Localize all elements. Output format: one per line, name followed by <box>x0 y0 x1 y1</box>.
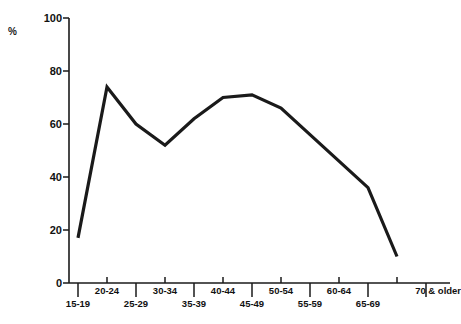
x-tick-label-25-29: 25-29 <box>124 298 148 309</box>
x-tick-label-70-and-older: 70 & older <box>415 285 461 296</box>
x-tick-label-60-64: 60-64 <box>327 285 351 296</box>
x-tick-label-55-59: 55-59 <box>298 298 322 309</box>
x-tick-label-15-19: 15-19 <box>66 298 90 309</box>
x-axis-ticks-long <box>78 283 426 297</box>
x-tick-label-40-44: 40-44 <box>211 285 235 296</box>
x-tick-label-30-34: 30-34 <box>153 285 177 296</box>
y-axis-ticks <box>63 18 69 283</box>
x-tick-label-50-54: 50-54 <box>269 285 293 296</box>
data-series-line <box>78 87 397 257</box>
x-tick-label-35-39: 35-39 <box>182 298 206 309</box>
x-tick-label-45-49: 45-49 <box>240 298 264 309</box>
x-tick-label-20-24: 20-24 <box>95 285 119 296</box>
x-tick-label-65-69: 65-69 <box>356 298 380 309</box>
x-axis-ticks-short <box>107 277 397 283</box>
